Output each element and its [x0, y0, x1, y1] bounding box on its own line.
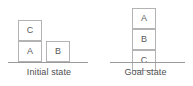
block-a-goal: A [132, 8, 156, 29]
initial-state-caption: Initial state [0, 66, 98, 78]
goal-state-caption: Goal state [98, 66, 193, 78]
block-b-goal: B [132, 29, 156, 50]
goal-state-scene: A B C Goal state [98, 0, 193, 86]
block-c-initial: C [18, 20, 42, 41]
block-b-initial: B [46, 41, 70, 62]
initial-state-scene: C A B Initial state [0, 0, 98, 86]
ground-line-goal [110, 62, 185, 63]
blocks-world-diagram: C A B Initial state A B C Goal state [0, 0, 193, 86]
block-a-initial: A [18, 41, 42, 62]
ground-line-initial [8, 62, 88, 63]
